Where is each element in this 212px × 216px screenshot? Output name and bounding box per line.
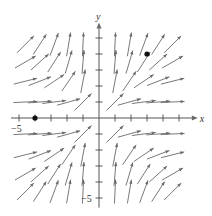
arrowhead-icon bbox=[60, 74, 64, 78]
arrowhead-icon bbox=[32, 168, 36, 171]
arrowhead-icon bbox=[83, 69, 86, 73]
arrowhead-icon bbox=[165, 77, 169, 80]
arrowhead-icon bbox=[47, 77, 51, 80]
solution-point bbox=[144, 51, 149, 56]
y-tick-label-neg5: −5 bbox=[81, 193, 92, 204]
arrowhead-icon bbox=[161, 34, 165, 38]
arrowhead-icon bbox=[114, 32, 117, 36]
arrowhead-icon bbox=[55, 33, 58, 37]
arrowhead-icon bbox=[130, 162, 133, 166]
y-axis-arrowhead bbox=[97, 22, 102, 28]
y-axis-label: y bbox=[95, 11, 101, 22]
arrowhead-icon bbox=[57, 164, 61, 168]
solution-point bbox=[32, 115, 37, 120]
x-axis-arrowhead bbox=[192, 116, 198, 121]
x-axis-label: x bbox=[199, 113, 205, 124]
arrowhead-icon bbox=[69, 50, 72, 54]
arrowhead-icon bbox=[60, 148, 64, 152]
arrowhead-icon bbox=[83, 143, 86, 147]
arrowhead-icon bbox=[32, 56, 36, 59]
arrowhead-icon bbox=[161, 182, 165, 186]
arrowhead-icon bbox=[129, 180, 132, 184]
arrowhead-icon bbox=[43, 182, 47, 186]
arrowhead-icon bbox=[181, 100, 185, 103]
solution-points bbox=[32, 51, 149, 120]
arrowhead-icon bbox=[150, 74, 154, 78]
arrowhead-icon bbox=[47, 150, 51, 153]
arrowhead-icon bbox=[145, 180, 148, 184]
arrowhead-icon bbox=[130, 50, 133, 54]
slope-field-plot: x y −5 −5 bbox=[0, 0, 212, 216]
arrowhead-icon bbox=[68, 33, 71, 37]
arrowhead-icon bbox=[145, 33, 148, 37]
x-tick-label-neg5: −5 bbox=[11, 123, 22, 134]
slope-field-figure: x y −5 −5 bbox=[0, 0, 212, 216]
arrowhead-icon bbox=[137, 130, 141, 133]
arrowhead-icon bbox=[68, 180, 71, 184]
arrowhead-icon bbox=[76, 98, 80, 101]
arrowhead-icon bbox=[43, 34, 47, 38]
arrowhead-icon bbox=[72, 145, 76, 149]
arrowhead-icon bbox=[129, 33, 132, 37]
arrowhead-icon bbox=[115, 69, 118, 73]
arrowhead-icon bbox=[133, 145, 137, 149]
arrowhead-icon bbox=[82, 32, 85, 36]
arrowhead-icon bbox=[150, 148, 154, 152]
arrowhead-icon bbox=[55, 180, 58, 184]
arrowhead-icon bbox=[147, 164, 151, 168]
arrowhead-icon bbox=[165, 150, 169, 153]
arrowhead-icon bbox=[137, 98, 141, 101]
arrowhead-icon bbox=[181, 132, 185, 135]
arrowhead-icon bbox=[69, 162, 72, 166]
arrowhead-icon bbox=[72, 71, 76, 75]
arrowhead-icon bbox=[179, 168, 183, 171]
arrowhead-icon bbox=[179, 56, 183, 59]
arrowhead-icon bbox=[133, 71, 137, 75]
arrowhead-icon bbox=[76, 130, 80, 133]
arrowhead-icon bbox=[57, 52, 61, 56]
arrowhead-icon bbox=[115, 143, 118, 147]
